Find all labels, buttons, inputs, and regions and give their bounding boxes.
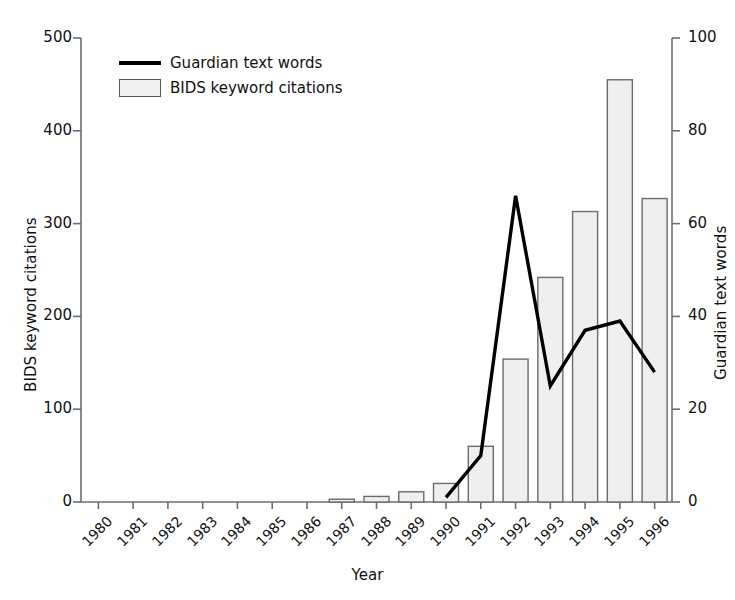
right-tick-label-0: 0	[688, 492, 735, 510]
left-tick-label-100: 100	[12, 399, 72, 417]
left-tick-label-400: 400	[12, 121, 72, 139]
plot-canvas	[0, 0, 735, 600]
x-axis-title: Year	[0, 566, 735, 584]
bar-1995	[607, 80, 632, 502]
bar-series-bids	[329, 80, 667, 502]
bar-1989	[399, 492, 424, 502]
x-axis-ticks	[98, 502, 654, 509]
left-tick-label-0: 0	[12, 492, 72, 510]
right-tick-label-100: 100	[688, 28, 735, 46]
right-axis-ticks	[672, 38, 680, 502]
legend-label-guardian: Guardian text words	[170, 54, 322, 72]
bar-1992	[503, 359, 528, 502]
chart-figure: 0 100 200 300 400 500 0 20 40 60 80 100 …	[0, 0, 735, 600]
bar-1988	[364, 496, 389, 502]
bar-1987	[329, 499, 354, 502]
right-tick-label-20: 20	[688, 399, 735, 417]
left-tick-label-500: 500	[12, 28, 72, 46]
legend-label-bids: BIDS keyword citations	[170, 79, 343, 97]
bar-1993	[538, 277, 563, 502]
legend-box-swatch-icon	[119, 79, 161, 97]
right-tick-label-80: 80	[688, 121, 735, 139]
left-tick-label-200: 200	[12, 306, 72, 324]
left-tick-label-300: 300	[12, 214, 72, 232]
bar-1996	[642, 199, 667, 502]
bar-1994	[573, 212, 598, 502]
y-axis-title-left: BIDS keyword citations	[22, 217, 40, 392]
legend-line-swatch-icon	[119, 61, 161, 65]
y-axis-title-right: Guardian text words	[712, 226, 730, 380]
left-axis-ticks	[73, 38, 81, 502]
